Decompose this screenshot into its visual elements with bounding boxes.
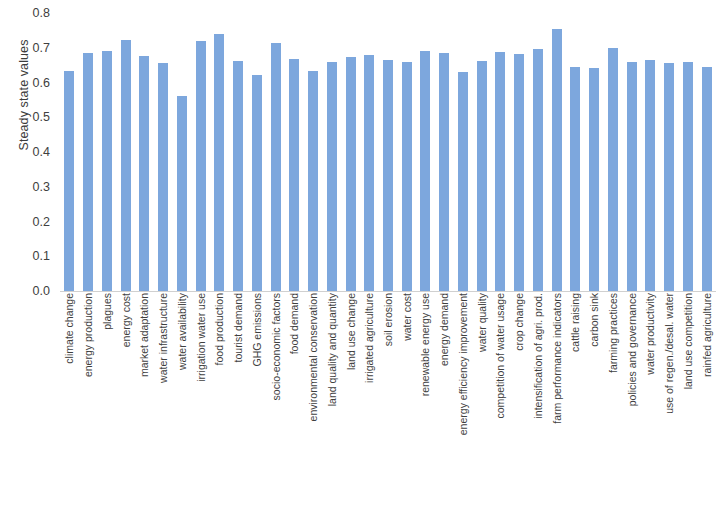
bar-slot bbox=[435, 13, 454, 291]
bar-slot bbox=[660, 13, 679, 291]
bar bbox=[158, 63, 168, 291]
bar-slot bbox=[454, 13, 473, 291]
x-tick-label: land use change bbox=[345, 293, 356, 370]
bar bbox=[608, 48, 618, 291]
bar bbox=[514, 54, 524, 291]
bar-slot bbox=[697, 13, 716, 291]
x-label-slot: farm performance indicators bbox=[547, 293, 566, 505]
bar-slot bbox=[229, 13, 248, 291]
x-label-slot: plagues bbox=[97, 293, 116, 505]
x-tick-label: food production bbox=[214, 293, 225, 365]
x-tick-label: irrigation water use bbox=[195, 293, 206, 382]
bar bbox=[83, 53, 93, 291]
bar-slot bbox=[416, 13, 435, 291]
x-label-slot: rainfed agriculture bbox=[697, 293, 716, 505]
x-label-slot: water infrastructure bbox=[154, 293, 173, 505]
bar-slot bbox=[97, 13, 116, 291]
x-tick-label: land quality and quantity bbox=[326, 293, 337, 406]
x-tick-label: farm performance indicators bbox=[551, 293, 562, 424]
bar-slot bbox=[116, 13, 135, 291]
x-tick-label: competition of water usage bbox=[495, 293, 506, 419]
bar bbox=[589, 68, 599, 291]
x-label-slot: climate change bbox=[60, 293, 79, 505]
bar-slot bbox=[397, 13, 416, 291]
x-label-slot: environmental conservation bbox=[304, 293, 323, 505]
bar bbox=[664, 63, 674, 291]
x-tick-label: tourist demand bbox=[233, 293, 244, 362]
bar bbox=[177, 96, 187, 291]
bar-slot bbox=[60, 13, 79, 291]
bar bbox=[308, 71, 318, 291]
bar bbox=[139, 56, 149, 291]
bar-slot bbox=[191, 13, 210, 291]
x-label-slot: use of regen./desal. water bbox=[660, 293, 679, 505]
bar bbox=[252, 75, 262, 291]
bar-slot bbox=[154, 13, 173, 291]
bar bbox=[346, 57, 356, 291]
bar-slot bbox=[585, 13, 604, 291]
x-label-slot: energy efficiency improvement bbox=[454, 293, 473, 505]
y-tick-label: 0.1 bbox=[33, 249, 50, 263]
x-label-slot: food production bbox=[210, 293, 229, 505]
bar-slot bbox=[641, 13, 660, 291]
x-tick-label: carbon sink bbox=[589, 293, 600, 347]
bar bbox=[645, 60, 655, 291]
bar-slot bbox=[566, 13, 585, 291]
bar bbox=[102, 51, 112, 291]
x-tick-label: environmental conservation bbox=[308, 293, 319, 421]
bar-slot bbox=[341, 13, 360, 291]
x-label-slot: energy cost bbox=[116, 293, 135, 505]
x-tick-label: water availability bbox=[176, 293, 187, 370]
bar bbox=[402, 62, 412, 291]
bar-slot bbox=[529, 13, 548, 291]
bar-slot bbox=[679, 13, 698, 291]
bar bbox=[271, 43, 281, 291]
x-tick-label: soil erosion bbox=[382, 293, 393, 346]
bar-slot bbox=[379, 13, 398, 291]
bar bbox=[702, 67, 712, 291]
x-label-slot: water quality bbox=[472, 293, 491, 505]
bar-slot bbox=[172, 13, 191, 291]
x-tick-label: water infrastructure bbox=[158, 293, 169, 383]
x-tick-label: climate change bbox=[64, 293, 75, 364]
bar bbox=[458, 72, 468, 291]
y-tick-label: 0.3 bbox=[33, 180, 50, 194]
x-label-slot: socio-economic factors bbox=[266, 293, 285, 505]
y-tick-label: 0.8 bbox=[33, 6, 50, 20]
bar-slot bbox=[360, 13, 379, 291]
x-tick-label: farming practices bbox=[607, 293, 618, 373]
bar-slot bbox=[79, 13, 98, 291]
plot-area bbox=[60, 13, 716, 291]
x-tick-label: GHG emissions bbox=[251, 293, 262, 367]
bar bbox=[420, 51, 430, 291]
bar bbox=[364, 55, 374, 291]
bar bbox=[233, 61, 243, 291]
bar-slot bbox=[510, 13, 529, 291]
x-tick-label: water productivity bbox=[645, 293, 656, 375]
x-label-slot: water cost bbox=[397, 293, 416, 505]
bar bbox=[683, 62, 693, 291]
x-label-slot: food demand bbox=[285, 293, 304, 505]
bar bbox=[533, 49, 543, 291]
y-axis-tick-labels: 0.80.70.60.50.40.30.20.10.0 bbox=[0, 0, 58, 300]
x-tick-label: cattle raising bbox=[570, 293, 581, 352]
x-label-slot: competition of water usage bbox=[491, 293, 510, 505]
x-tick-label: water cost bbox=[401, 293, 412, 341]
bar-slot bbox=[135, 13, 154, 291]
x-axis-baseline bbox=[60, 291, 716, 292]
x-label-slot: cattle raising bbox=[566, 293, 585, 505]
bar-slot bbox=[547, 13, 566, 291]
bar bbox=[327, 62, 337, 291]
x-label-slot: land use change bbox=[341, 293, 360, 505]
x-tick-label: renewable energy use bbox=[420, 293, 431, 396]
y-tick-label: 0.0 bbox=[33, 284, 50, 298]
bar-slot bbox=[266, 13, 285, 291]
y-tick-label: 0.6 bbox=[33, 76, 50, 90]
x-tick-label: policies and governance bbox=[626, 293, 637, 406]
bar bbox=[64, 71, 74, 291]
x-tick-label: land use competition bbox=[682, 293, 693, 389]
x-tick-label: food demand bbox=[289, 293, 300, 354]
x-label-slot: market adaptation bbox=[135, 293, 154, 505]
bar-slot bbox=[210, 13, 229, 291]
x-label-slot: GHG emissions bbox=[247, 293, 266, 505]
